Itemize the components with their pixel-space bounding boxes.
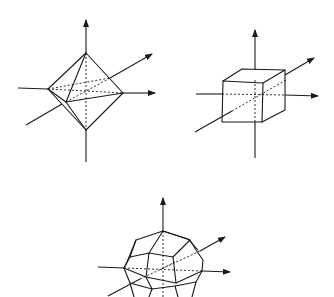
depth-axis-front: [26, 104, 62, 125]
cube-figure: [195, 30, 318, 158]
horizontal-axis-arrow-icon: [285, 95, 318, 96]
horizontal-axis-left: [18, 88, 48, 89]
cube-axes: [195, 30, 318, 158]
depth-axis-arrow-icon: [200, 237, 225, 251]
horizontal-axis-arrow-icon: [202, 271, 230, 272]
depth-axis-arrow-icon: [285, 58, 314, 75]
figure-canvas: [0, 0, 334, 297]
depth-axis-front: [108, 279, 140, 296]
octahedron-axes: [18, 20, 155, 162]
polyhedron-visible-edges: [124, 231, 203, 297]
octahedron-visible-edges: [48, 53, 123, 130]
octahedron-hidden-edges: [48, 53, 123, 130]
depth-axis-arrow-icon: [110, 54, 152, 78]
horizontal-axis-left: [98, 267, 124, 268]
cube-hidden-edges: [222, 80, 286, 122]
polyhedron-axes: [98, 198, 230, 296]
cube-visible-edges: [222, 69, 285, 122]
polyhedron-figure: [98, 198, 230, 297]
octahedron-figure: [18, 20, 155, 162]
